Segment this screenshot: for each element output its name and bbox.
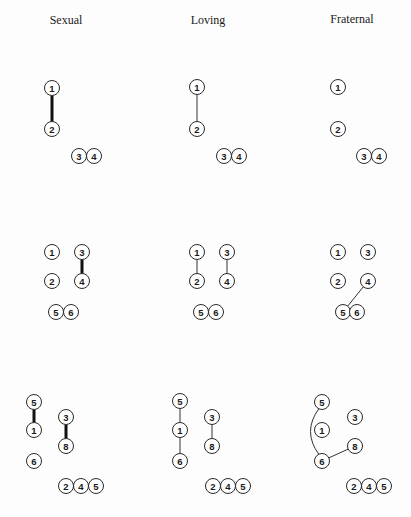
node-1: 1 — [45, 81, 60, 96]
node-3: 3 — [361, 245, 376, 260]
node-5: 5 — [27, 395, 42, 410]
node-2: 2 — [190, 274, 205, 289]
node-5: 5 — [194, 305, 209, 320]
panel-edges-row2-loving — [197, 260, 227, 274]
edge-4-5 — [348, 287, 364, 306]
node-1: 1 — [45, 245, 60, 260]
node-2: 2 — [45, 274, 60, 289]
node-label: 2 — [210, 481, 215, 492]
node-label: 4 — [91, 151, 97, 162]
node-label: 5 — [177, 396, 183, 407]
node-label: 5 — [381, 481, 387, 492]
panel-nodes-row2-sexual: 132456 — [45, 245, 90, 320]
node-3: 3 — [220, 245, 235, 260]
node-label: 8 — [209, 441, 214, 452]
node-label: 1 — [177, 425, 183, 436]
node-label: 3 — [63, 412, 68, 423]
node-label: 2 — [49, 276, 54, 287]
node-label: 4 — [366, 481, 372, 492]
panel-nodes-row3-loving: 51638245 — [173, 394, 251, 494]
panel-edges-row2-fraternal — [348, 287, 364, 306]
node-6: 6 — [173, 454, 188, 469]
node-label: 1 — [335, 247, 341, 258]
node-2: 2 — [347, 479, 362, 494]
node-3: 3 — [217, 149, 232, 164]
node-4: 4 — [232, 149, 247, 164]
node-label: 5 — [31, 397, 37, 408]
node-3: 3 — [205, 410, 220, 425]
node-label: 4 — [376, 151, 382, 162]
node-1: 1 — [27, 423, 42, 438]
node-6: 6 — [209, 305, 224, 320]
node-label: 3 — [352, 412, 357, 423]
node-4: 4 — [361, 274, 376, 289]
node-5: 5 — [173, 394, 188, 409]
node-label: 4 — [224, 276, 230, 287]
node-label: 5 — [240, 481, 246, 492]
node-label: 3 — [79, 247, 84, 258]
panel-nodes-row2-fraternal: 132456 — [331, 245, 376, 320]
node-5: 5 — [89, 479, 104, 494]
node-6: 6 — [350, 305, 365, 320]
node-label: 3 — [221, 151, 226, 162]
node-label: 2 — [49, 124, 54, 135]
node-label: 3 — [209, 412, 214, 423]
node-label: 3 — [361, 151, 366, 162]
node-label: 4 — [225, 481, 231, 492]
node-label: 1 — [31, 425, 37, 436]
node-1: 1 — [315, 423, 330, 438]
panel-nodes-row3-fraternal: 51638245 — [315, 395, 392, 494]
node-label: 8 — [352, 441, 357, 452]
node-label: 8 — [63, 441, 68, 452]
node-label: 1 — [49, 83, 55, 94]
relationship-network-diagram: Sexual Loving Fraternal 1234123412341324… — [0, 0, 411, 517]
node-label: 5 — [340, 307, 346, 318]
node-1: 1 — [331, 80, 346, 95]
column-title-sexual: Sexual — [50, 13, 83, 27]
nodes-layer: 1234123412341324561324561324565163824551… — [27, 80, 392, 494]
node-label: 2 — [335, 124, 340, 135]
panel-nodes-row2-loving: 132456 — [190, 245, 235, 320]
node-label: 6 — [177, 456, 182, 467]
node-4: 4 — [75, 274, 90, 289]
node-label: 5 — [319, 397, 325, 408]
node-2: 2 — [206, 479, 221, 494]
node-label: 5 — [53, 307, 59, 318]
column-title-loving: Loving — [191, 13, 226, 27]
panel-nodes-row1-loving: 1234 — [190, 80, 247, 164]
node-label: 6 — [213, 307, 218, 318]
node-2: 2 — [45, 122, 60, 137]
node-4: 4 — [221, 479, 236, 494]
node-label: 2 — [194, 124, 199, 135]
node-label: 4 — [365, 276, 371, 287]
node-label: 3 — [224, 247, 229, 258]
panel-nodes-row3-sexual: 51638245 — [27, 395, 104, 494]
node-label: 3 — [76, 151, 81, 162]
node-2: 2 — [59, 479, 74, 494]
node-label: 6 — [68, 307, 73, 318]
node-label: 2 — [194, 276, 199, 287]
edge-6-8 — [329, 449, 348, 458]
panel-nodes-row1-fraternal: 1234 — [331, 80, 387, 164]
node-label: 5 — [93, 481, 99, 492]
node-label: 5 — [198, 307, 204, 318]
node-3: 3 — [75, 245, 90, 260]
node-3: 3 — [357, 149, 372, 164]
node-3: 3 — [348, 410, 363, 425]
node-4: 4 — [220, 274, 235, 289]
node-label: 1 — [319, 425, 325, 436]
node-label: 4 — [78, 481, 84, 492]
node-5: 5 — [315, 395, 330, 410]
node-label: 4 — [79, 276, 85, 287]
node-1: 1 — [190, 245, 205, 260]
node-label: 1 — [335, 82, 341, 93]
node-label: 2 — [63, 481, 68, 492]
node-4: 4 — [362, 479, 377, 494]
node-2: 2 — [331, 274, 346, 289]
node-5: 5 — [377, 479, 392, 494]
node-3: 3 — [59, 410, 74, 425]
node-1: 1 — [190, 80, 205, 95]
column-titles: Sexual Loving Fraternal — [50, 12, 375, 27]
node-2: 2 — [190, 122, 205, 137]
node-label: 1 — [194, 247, 200, 258]
